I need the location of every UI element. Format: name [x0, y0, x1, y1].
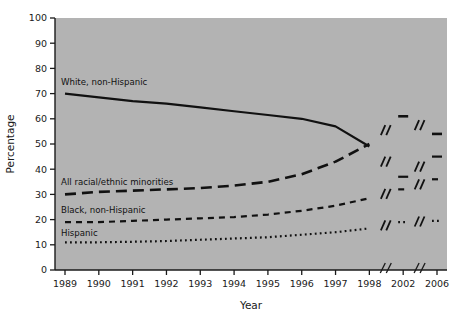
x-axis-tick-label: 1993: [188, 278, 212, 289]
y-axis-tick-label: 60: [35, 113, 47, 124]
y-axis-title: Percentage: [4, 114, 16, 173]
x-axis-tick-label: 1990: [87, 278, 111, 289]
x-axis-tick-label: 1995: [256, 278, 280, 289]
x-axis-tick-label: 1992: [154, 278, 178, 289]
y-axis-tick-label: 20: [35, 214, 47, 225]
plot-background: [55, 18, 447, 270]
y-axis-tick-label: 40: [35, 164, 47, 175]
x-axis-tick-label: 1997: [323, 278, 347, 289]
line-chart: 0102030405060708090100198919901991199219…: [0, 0, 459, 315]
x-axis-title: Year: [239, 299, 263, 311]
x-axis-tick-label: 1998: [357, 278, 381, 289]
x-axis-tick-label: 1991: [121, 278, 145, 289]
y-axis-tick-label: 90: [35, 38, 47, 49]
x-axis-tick-label: 1996: [290, 278, 314, 289]
y-axis-tick-label: 50: [35, 138, 47, 149]
x-axis-tick-label: 1989: [53, 278, 77, 289]
y-axis-tick-label: 70: [35, 88, 47, 99]
chart-figure: 0102030405060708090100198919901991199219…: [0, 0, 459, 315]
y-axis-tick-label: 0: [41, 264, 47, 275]
y-axis-tick-label: 100: [29, 12, 47, 23]
y-axis-tick-label: 10: [35, 239, 47, 250]
y-axis-tick-label: 80: [35, 63, 47, 74]
x-axis-tick-label: 1994: [222, 278, 246, 289]
x-axis-tick-label: 2002: [391, 278, 415, 289]
x-axis-tick-label: 2006: [425, 278, 449, 289]
y-axis-tick-label: 30: [35, 189, 47, 200]
